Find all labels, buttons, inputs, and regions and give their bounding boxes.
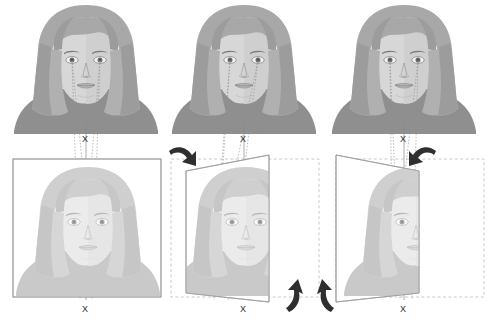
portrait-upper-2 (172, 5, 316, 134)
rotation-arrow-top-3 (409, 147, 436, 166)
portrait-upper-3 (332, 5, 476, 134)
x-marker-lower-panel-1: X (82, 305, 88, 314)
projection-plane-1 (13, 159, 161, 297)
rotation-arrow-bottom-3 (317, 279, 334, 312)
x-marker-lower-panel-3: X (400, 305, 406, 314)
rotated-plane-3 (336, 155, 488, 302)
diagram-svg (0, 0, 491, 331)
panel-rotated-right (317, 5, 488, 312)
figure-canvas: X X X X X X (0, 0, 491, 331)
rotation-arrow-top-2 (169, 147, 196, 166)
x-marker-upper-panel-1: X (82, 135, 88, 144)
panel-frontal (13, 5, 161, 300)
x-marker-upper-panel-2: X (240, 135, 246, 144)
rotated-plane-2 (174, 155, 318, 302)
x-marker-lower-panel-2: X (240, 305, 246, 314)
portrait-upper-1 (14, 5, 158, 134)
rotation-arrow-bottom-2 (286, 279, 303, 312)
panel-rotated-left (169, 5, 319, 312)
x-marker-upper-panel-3: X (400, 135, 406, 144)
